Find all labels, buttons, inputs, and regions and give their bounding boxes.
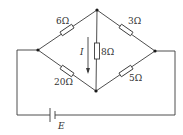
node-right (153, 49, 156, 52)
current-arrow-icon (86, 37, 90, 74)
left-wire (17, 50, 50, 115)
resistor-8ohm-icon (95, 43, 100, 59)
label-5ohm: 5Ω (129, 73, 142, 83)
battery-label: E (57, 121, 65, 131)
node-left (36, 48, 39, 51)
circuit-diagram: E 6Ω 3Ω 8Ω 20Ω 5Ω I (0, 0, 183, 135)
resistor-20ohm-icon (60, 65, 74, 77)
label-20ohm: 20Ω (54, 77, 73, 87)
label-3ohm: 3Ω (128, 16, 141, 26)
current-label: I (79, 47, 84, 57)
label-6ohm: 6Ω (56, 16, 69, 26)
label-8ohm: 8Ω (101, 47, 114, 57)
node-bottom (94, 89, 97, 92)
node-top (95, 8, 98, 11)
battery-icon (50, 108, 55, 122)
right-wire (55, 51, 175, 115)
